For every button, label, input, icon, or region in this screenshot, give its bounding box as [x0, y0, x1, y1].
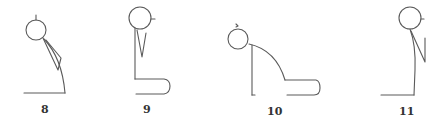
figure-label-9: 9 — [143, 103, 151, 116]
figure-8 — [24, 15, 65, 93]
figure-10 — [228, 24, 320, 95]
figure-11 — [381, 7, 425, 95]
figures-svg — [0, 0, 443, 124]
figure-label-8: 8 — [41, 103, 49, 116]
figure-label-11: 11 — [399, 105, 414, 118]
figure-9 — [129, 7, 170, 94]
figure-label-10: 10 — [267, 105, 282, 118]
posture-diagram: 8 9 10 11 — [0, 0, 443, 124]
